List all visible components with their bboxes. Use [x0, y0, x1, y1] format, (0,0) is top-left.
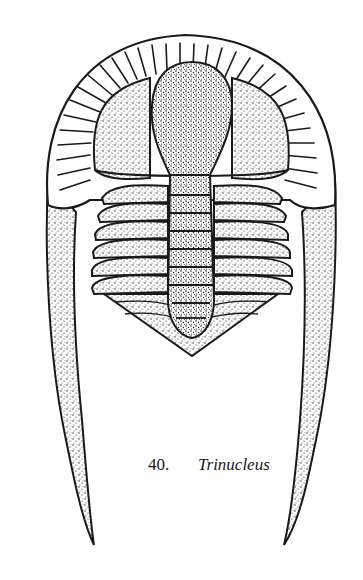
figure-number: 40.	[148, 455, 169, 475]
left-genal-spine	[47, 180, 94, 545]
right-genal-spine	[284, 180, 336, 545]
trilobite-illustration	[0, 0, 363, 580]
taxon-name: Trinucleus	[198, 455, 270, 475]
axial-lobe	[168, 175, 214, 338]
